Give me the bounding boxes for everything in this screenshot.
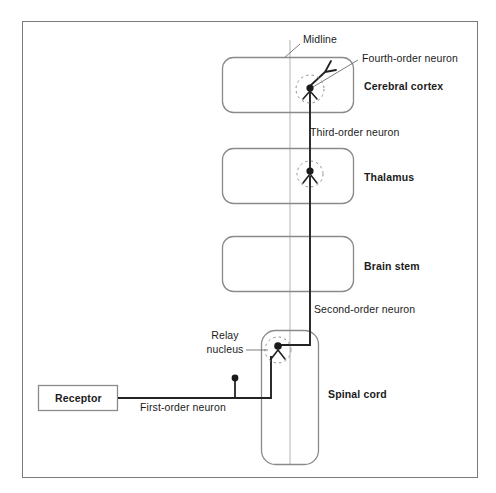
relay-soma-dot (274, 342, 282, 350)
first-order-soma-dot (232, 375, 239, 382)
relay-nucleus-label-line1: Relay (203, 329, 247, 342)
receptor-label: Receptor (55, 392, 102, 405)
brain-stem-label: Brain stem (364, 260, 420, 273)
cerebral-cortex-label: Cerebral cortex (364, 80, 443, 93)
midline-label: Midline (303, 33, 337, 46)
relay-nucleus-label-line2: nucleus (203, 343, 247, 356)
third-order-neuron-label: Third-order neuron (310, 126, 399, 139)
diagram-svg (0, 0, 496, 493)
fourth-order-neuron-label: Fourth-order neuron (362, 52, 458, 65)
spinal-cord-label: Spinal cord (328, 388, 387, 401)
figure-canvas: Midline Fourth-order neuron Cerebral cor… (0, 0, 496, 493)
first-order-neuron-label: First-order neuron (140, 401, 226, 414)
thalamus-label: Thalamus (364, 171, 414, 184)
second-order-neuron-label: Second-order neuron (314, 303, 415, 316)
